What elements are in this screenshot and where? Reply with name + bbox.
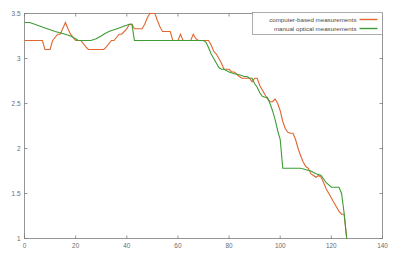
- x-tick-label: 60: [174, 242, 182, 249]
- x-tick-label: 0: [23, 242, 27, 249]
- line-chart: 11.522.533.5 020406080100120140 computer…: [0, 0, 398, 260]
- x-tick-label: 100: [275, 242, 286, 249]
- chart-legend[interactable]: computer-based measurementsmanual optica…: [253, 13, 383, 35]
- y-tick-label: 3.5: [12, 10, 21, 17]
- y-tick-label: 2: [17, 145, 21, 152]
- y-tick-label: 3: [17, 55, 21, 62]
- x-tick-label: 20: [72, 242, 80, 249]
- y-tick-label: 2.5: [12, 100, 21, 107]
- y-tick-label: 1.5: [12, 190, 21, 197]
- x-tick-label: 80: [226, 242, 234, 249]
- y-tick-label: 1: [17, 235, 21, 242]
- legend-label: manual optical measurements: [274, 25, 357, 32]
- legend-label: computer-based measurements: [269, 16, 356, 23]
- x-tick-label: 120: [326, 242, 337, 249]
- chart-container: 11.522.533.5 020406080100120140 computer…: [0, 0, 398, 260]
- x-tick-label: 40: [123, 242, 131, 249]
- chart-background: [0, 0, 398, 260]
- x-tick-label: 140: [377, 242, 388, 249]
